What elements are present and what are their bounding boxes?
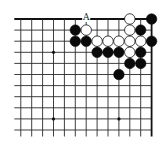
black-stone: [92, 47, 103, 58]
white-stone: [125, 36, 136, 47]
black-stone: [135, 58, 146, 69]
star-point: [52, 117, 55, 120]
white-stone: [125, 47, 136, 58]
white-stone: [103, 36, 114, 47]
white-stone: [114, 36, 125, 47]
black-stone: [146, 36, 157, 47]
white-stone: [81, 25, 92, 35]
white-stone: [92, 36, 103, 47]
white-stone: [125, 14, 136, 25]
stones: [70, 14, 157, 80]
star-point: [117, 117, 120, 120]
point-label-a: A: [82, 12, 90, 22]
black-stone: [146, 14, 157, 25]
black-stone: [114, 47, 125, 58]
point-labels: A: [82, 12, 90, 22]
black-stone: [135, 47, 146, 58]
go-board: A: [0, 0, 163, 148]
white-stone: [135, 36, 146, 47]
black-stone: [135, 25, 146, 35]
black-stone: [114, 69, 125, 80]
black-stone: [81, 36, 92, 47]
white-stone: [125, 25, 136, 35]
black-stone: [70, 25, 81, 35]
black-stone: [103, 47, 114, 58]
star-point: [52, 51, 55, 54]
black-stone: [125, 58, 136, 69]
black-stone: [70, 36, 81, 47]
